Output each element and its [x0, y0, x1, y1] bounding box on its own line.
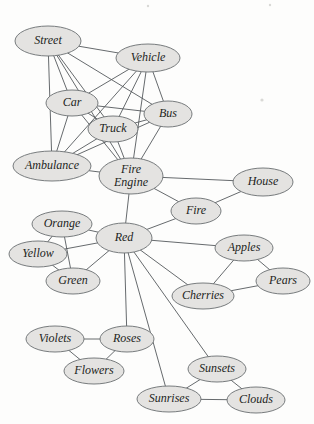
edge-fire_engine-red: [126, 194, 129, 223]
node-label-street: Street: [34, 33, 62, 47]
node-label-ambulance: Ambulance: [24, 158, 80, 172]
node-sunsets[interactable]: Sunsets: [188, 356, 246, 382]
node-label-fire: Fire: [185, 203, 207, 217]
node-label-house: House: [247, 174, 279, 188]
node-label-line2-fire_engine: Engine: [113, 175, 149, 189]
edge-red-roses: [124, 253, 126, 326]
edge-bus-truck: [135, 120, 146, 123]
node-truck[interactable]: Truck: [88, 116, 138, 142]
node-label-red: Red: [114, 230, 135, 244]
scan-artifact-dot: [147, 5, 149, 7]
edge-vehicle-bus: [153, 72, 164, 101]
edge-car-bus: [97, 106, 144, 111]
node-label-clouds: Clouds: [239, 392, 273, 406]
node-label-green: Green: [58, 273, 88, 287]
scan-artifact-dot: [260, 98, 263, 101]
edge-red-yellow: [65, 243, 98, 249]
node-fire[interactable]: Fire: [171, 198, 221, 224]
node-street[interactable]: Street: [15, 26, 81, 56]
node-sunrises[interactable]: Sunrises: [137, 386, 201, 412]
edge-apples-cherries: [213, 260, 233, 284]
node-house[interactable]: House: [233, 168, 293, 196]
edge-red-apples: [152, 240, 216, 245]
edge-fire-red: [147, 219, 176, 230]
node-label-bus: Bus: [159, 106, 177, 120]
node-fire_engine[interactable]: FireEngine: [99, 158, 163, 194]
node-label-pears: Pears: [268, 273, 297, 287]
node-vehicle[interactable]: Vehicle: [116, 44, 180, 72]
edge-apples-pears: [258, 259, 270, 269]
node-roses[interactable]: Roses: [100, 326, 154, 352]
node-pears[interactable]: Pears: [256, 268, 310, 294]
edge-fire_engine-house: [163, 177, 233, 180]
node-label-cherries: Cherries: [182, 288, 224, 302]
node-label-yellow: Yellow: [22, 246, 54, 260]
edge-car-ambulance: [57, 116, 68, 151]
node-label-sunrises: Sunrises: [149, 391, 190, 405]
edge-yellow-green: [53, 265, 59, 270]
node-label-vehicle: Vehicle: [131, 50, 166, 64]
node-car[interactable]: Car: [46, 90, 98, 116]
node-bus[interactable]: Bus: [144, 101, 192, 127]
node-clouds[interactable]: Clouds: [227, 387, 285, 413]
node-flowers[interactable]: Flowers: [64, 358, 124, 384]
node-violets[interactable]: Violets: [26, 326, 84, 352]
node-label-sunsets: Sunsets: [199, 361, 235, 375]
edge-red-cherries: [141, 250, 188, 285]
node-ambulance[interactable]: Ambulance: [13, 151, 91, 181]
edge-roses-flowers: [106, 351, 115, 359]
node-orange[interactable]: Orange: [32, 211, 92, 237]
node-label-violets: Violets: [39, 331, 72, 345]
edge-fire_engine-fire: [154, 188, 179, 201]
edge-red-green: [86, 251, 109, 270]
node-label-orange: Orange: [44, 216, 81, 230]
nodes-layer: StreetVehicleCarBusTruckAmbulanceFireEng…: [9, 26, 310, 413]
node-label-flowers: Flowers: [73, 363, 114, 377]
network-diagram-canvas: StreetVehicleCarBusTruckAmbulanceFireEng…: [0, 0, 314, 424]
edge-ambulance-fire_engine: [89, 171, 100, 172]
edge-red-orange: [89, 230, 99, 232]
edge-sunsets-sunrises: [186, 380, 200, 389]
edge-orange-yellow: [48, 236, 52, 241]
edge-pears-cherries: [231, 286, 258, 291]
edge-sunsets-clouds: [231, 380, 242, 388]
scan-artifact-dot: [269, 4, 271, 6]
node-label-line1-fire_engine: Fire: [120, 162, 142, 176]
node-green[interactable]: Green: [46, 268, 100, 294]
node-label-roses: Roses: [112, 331, 141, 345]
node-apples[interactable]: Apples: [215, 235, 273, 261]
edge-violets-flowers: [69, 350, 80, 359]
edge-vehicle-car: [89, 69, 129, 93]
edge-bus-fire_engine: [141, 126, 160, 159]
node-cherries[interactable]: Cherries: [172, 283, 234, 309]
node-yellow[interactable]: Yellow: [9, 241, 67, 267]
edge-red-sunrises: [128, 253, 165, 386]
node-red[interactable]: Red: [96, 223, 152, 253]
edge-house-fire: [215, 192, 241, 203]
edge-street-vehicle: [79, 46, 118, 53]
network-diagram-svg: StreetVehicleCarBusTruckAmbulanceFireEng…: [0, 0, 314, 424]
node-label-car: Car: [63, 95, 82, 109]
node-label-apples: Apples: [227, 240, 261, 254]
node-label-truck: Truck: [99, 121, 127, 135]
